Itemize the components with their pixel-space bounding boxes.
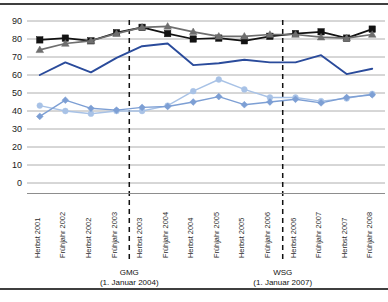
line-chart-svg: 0102030405060708090 Herbst 2001Frühjahr … <box>0 0 388 302</box>
event-label: GMG <box>120 268 139 277</box>
data-point-marker <box>37 103 43 109</box>
gridlines-group <box>27 21 385 183</box>
event-label: WSG <box>273 268 292 277</box>
event-sublabel: (1. Januar 2004) <box>100 278 159 287</box>
data-point-marker <box>164 30 170 36</box>
data-point-marker <box>62 108 68 114</box>
y-axis-tick-label: 70 <box>12 52 22 62</box>
data-point-marker <box>62 97 69 104</box>
x-axis-tick-label: Herbst 2003 <box>135 218 144 258</box>
x-axis-tick-label: Frühjahr 2008 <box>365 212 374 258</box>
data-series-layer <box>36 23 376 120</box>
y-axis-tick-label: 80 <box>12 34 22 44</box>
y-axis-tick-labels: 0102030405060708090 <box>12 16 22 188</box>
data-point-marker <box>190 36 196 42</box>
data-point-marker <box>267 99 274 106</box>
x-axis-tick-label: Herbst 2006 <box>289 218 298 258</box>
y-axis-tick-label: 0 <box>17 178 22 188</box>
series-line-series-darkblue-line <box>40 44 372 76</box>
data-point-marker <box>241 101 248 108</box>
x-axis-tick-label: Herbst 2002 <box>84 218 93 258</box>
y-axis-tick-label: 10 <box>12 160 22 170</box>
y-axis-tick-label: 40 <box>12 106 22 116</box>
data-point-marker <box>215 93 222 100</box>
x-axis-tick-labels: Herbst 2001Frühjahr 2002Herbst 2002Frühj… <box>33 212 374 258</box>
event-dashed-lines <box>129 20 282 262</box>
chart-figure: 0102030405060708090 Herbst 2001Frühjahr … <box>0 0 388 302</box>
event-sublabel: (1. Januar 2007) <box>253 278 312 287</box>
y-axis-tick-label: 30 <box>12 124 22 134</box>
x-axis-tick-label: Herbst 2001 <box>33 218 42 258</box>
x-axis-tick-label: Herbst 2005 <box>237 218 246 258</box>
data-point-marker <box>190 88 196 94</box>
x-axis-tick-label: Frühjahr 2002 <box>58 212 67 258</box>
x-axis-tick-label: Frühjahr 2006 <box>263 212 272 258</box>
data-point-marker <box>37 37 43 43</box>
x-axis-tick-label: Frühjahr 2003 <box>110 212 119 258</box>
x-axis-tick-label: Herbst 2007 <box>340 218 349 258</box>
event-annotations: GMG(1. Januar 2004)WSG(1. Januar 2007) <box>100 268 312 287</box>
y-axis-tick-label: 90 <box>12 16 22 26</box>
x-axis-tick-label: Frühjahr 2004 <box>161 212 170 258</box>
y-axis-tick-label: 60 <box>12 70 22 80</box>
data-point-marker <box>216 77 222 83</box>
y-axis-tick-label: 20 <box>12 142 22 152</box>
x-axis-tick-label: Frühjahr 2007 <box>314 212 323 258</box>
y-axis-tick-label: 50 <box>12 88 22 98</box>
data-point-marker <box>241 87 247 93</box>
data-point-marker <box>190 99 197 106</box>
x-axis-tick-label: Frühjahr 2005 <box>212 212 221 258</box>
x-axis-tick-label: Herbst 2004 <box>186 218 195 258</box>
data-point-marker <box>36 113 43 120</box>
